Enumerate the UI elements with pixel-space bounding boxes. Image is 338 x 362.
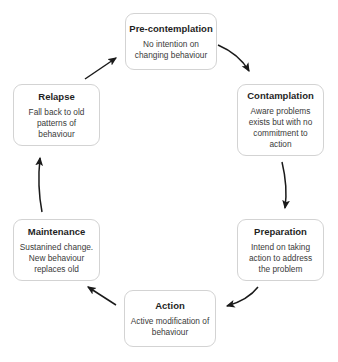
stage-box-pre-contemplation[interactable]: Pre-contemplation No intention on changi…	[125, 13, 217, 70]
arrow-action-to-maintenance	[88, 287, 116, 305]
stage-description-action: Active modification of behaviour	[130, 316, 210, 338]
stage-box-action[interactable]: Action Active modification of behaviour	[124, 290, 216, 347]
cropped-heading-artifact	[0, 0, 338, 7]
arrow-relapse-to-precontemplation	[85, 58, 116, 79]
stage-box-maintenance[interactable]: Maintenance Sustanined change. New behav…	[13, 219, 100, 281]
stage-description-preparation: Intend on taking action to address the p…	[243, 242, 318, 275]
stage-title-preparation: Preparation	[254, 226, 307, 238]
stage-title-maintenance: Maintenance	[28, 226, 86, 238]
stage-title-contamplation: Contamplation	[247, 90, 314, 102]
arrow-preparation-to-action	[227, 287, 258, 306]
stage-description-pre-contemplation: No intention on changing behaviour	[131, 39, 211, 61]
arrow-contamplation-to-preparation	[282, 162, 286, 208]
stage-description-maintenance: Sustanined change. New behaviour replace…	[19, 242, 94, 275]
arrow-precontemplation-to-contamplation	[218, 45, 249, 71]
stage-title-action: Action	[155, 300, 185, 312]
arrow-maintenance-to-relapse	[39, 158, 42, 212]
stage-box-relapse[interactable]: Relapse Fall back to old patterns of beh…	[13, 84, 100, 146]
stage-box-preparation[interactable]: Preparation Intend on taking action to a…	[237, 219, 324, 281]
stage-title-relapse: Relapse	[38, 91, 74, 103]
stage-description-contamplation: Aware problems exists but with no commit…	[243, 106, 318, 150]
stages-of-change-diagram: Pre-contemplation No intention on changi…	[0, 0, 338, 362]
stage-description-relapse: Fall back to old patterns of behaviour	[19, 107, 94, 140]
stage-title-pre-contemplation: Pre-contemplation	[129, 23, 212, 35]
stage-box-contamplation[interactable]: Contamplation Aware problems exists but …	[237, 84, 324, 156]
